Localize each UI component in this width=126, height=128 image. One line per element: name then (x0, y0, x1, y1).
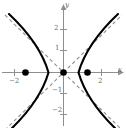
y-axis-label: y (65, 2, 69, 9)
tick-label-y-pos2: 2 (54, 25, 58, 32)
plot-canvas (0, 0, 126, 128)
right-branch-curve (79, 14, 119, 128)
center-point (60, 69, 67, 76)
axes-group (2, 4, 124, 126)
tick-label-y-neg1: −1 (52, 87, 62, 94)
left-focus-point (22, 69, 29, 76)
tick-label-y-neg2: −2 (52, 107, 62, 114)
hyperbola-figure: y x −2 2 2 1 −1 −2 (0, 0, 126, 128)
x-axis-label: x (118, 67, 122, 74)
tick-label-y-pos1: 1 (55, 45, 59, 52)
tick-label-x-neg2: −2 (9, 78, 19, 85)
tick-label-x-pos2: 2 (98, 78, 102, 85)
right-focus-point (84, 69, 91, 76)
